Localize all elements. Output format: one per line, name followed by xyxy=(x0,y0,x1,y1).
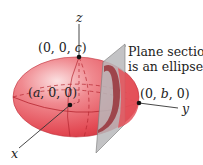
ellipsoid-diagram: z y x (0, 0, c) (a, 0, 0) (0, b, 0) Plan… xyxy=(0,0,203,165)
point-a-label: (a, 0, 0) xyxy=(28,85,77,100)
point-c-label: (0, 0, c) xyxy=(38,40,87,55)
z-axis-label: z xyxy=(75,10,83,25)
point-b xyxy=(137,101,142,106)
point-b-label: (0, b, 0) xyxy=(140,86,190,101)
y-axis-label: y xyxy=(181,101,190,116)
point-a xyxy=(68,103,73,108)
ellipsoid-cap xyxy=(118,68,139,128)
point-c xyxy=(77,55,82,60)
y-axis xyxy=(139,103,178,108)
annotation-line-2: is an ellipse xyxy=(128,59,203,74)
x-axis-label: x xyxy=(11,146,18,161)
annotation-line-1: Plane section xyxy=(128,44,203,59)
